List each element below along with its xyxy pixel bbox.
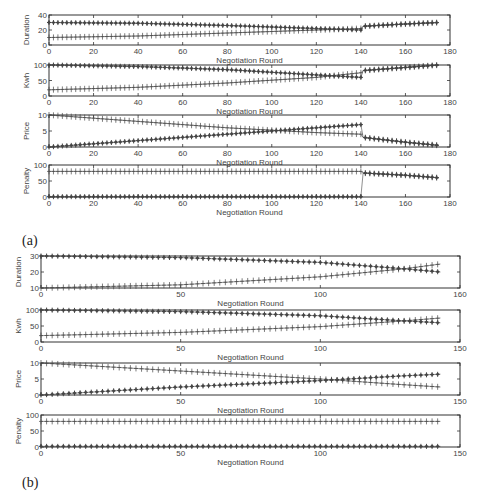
subplot-duration: 050100160102030DurationNegotiation Round xyxy=(14,252,467,308)
x-tick-label: 100 xyxy=(314,290,328,299)
x-tick-label: 150 xyxy=(453,397,467,406)
x-tick-label: 60 xyxy=(178,47,187,56)
y-axis-label: Kwh xyxy=(22,73,31,89)
series-star-marker xyxy=(47,20,439,33)
series-star-marker xyxy=(47,122,439,149)
y-axis-label: Kwh xyxy=(14,318,23,334)
y-tick-label: 0 xyxy=(35,391,40,400)
y-tick-label: 100 xyxy=(34,61,48,70)
x-tick-label: 100 xyxy=(265,47,279,56)
y-tick-label: 20 xyxy=(30,268,39,277)
y-axis-label: Duration xyxy=(22,15,31,45)
series-plus-marker xyxy=(39,360,440,390)
x-tick-label: 120 xyxy=(310,149,324,158)
series-star-marker xyxy=(39,444,440,449)
y-tick-label: 10 xyxy=(30,284,39,293)
x-tick-label: 50 xyxy=(176,397,185,406)
x-tick-label: 180 xyxy=(443,47,457,56)
y-tick-label: 100 xyxy=(26,306,40,315)
series-plus-marker xyxy=(47,168,439,180)
subplot-kwh: 050100150050100KwhNegotiation Round xyxy=(14,306,467,362)
x-tick-label: 40 xyxy=(134,149,143,158)
series-plus-marker xyxy=(39,315,440,338)
x-tick-label: 100 xyxy=(314,449,328,458)
y-tick-label: 0 xyxy=(43,41,48,50)
x-tick-label: 100 xyxy=(265,199,279,208)
x-tick-label: 140 xyxy=(354,47,368,56)
y-axis-label: Penalty xyxy=(22,168,31,195)
x-axis-label: Negotiation Round xyxy=(216,208,282,217)
x-tick-label: 40 xyxy=(134,199,143,208)
x-tick-label: 150 xyxy=(453,449,467,458)
x-tick-label: 80 xyxy=(223,199,232,208)
y-tick-label: 10 xyxy=(38,111,47,120)
x-tick-label: 160 xyxy=(453,290,467,299)
subplot-penalty: 050100150050100PenaltyNegotiation Round xyxy=(14,411,467,467)
x-tick-label: 50 xyxy=(176,290,185,299)
y-tick-label: 100 xyxy=(26,411,40,420)
x-tick-label: 0 xyxy=(39,397,44,406)
y-tick-label: 5 xyxy=(43,127,48,136)
axes-box xyxy=(41,256,460,288)
x-axis-label: Negotiation Round xyxy=(216,56,282,65)
subplot-penalty: 020406080100120140160180050100PenaltyNeg… xyxy=(22,161,457,217)
x-tick-label: 180 xyxy=(443,98,457,107)
x-tick-label: 120 xyxy=(310,98,324,107)
panel-b: 050100160102030DurationNegotiation Round… xyxy=(14,252,467,467)
x-axis-label: Negotiation Round xyxy=(217,458,283,467)
x-tick-label: 0 xyxy=(47,149,52,158)
x-tick-label: 50 xyxy=(176,344,185,353)
x-tick-label: 160 xyxy=(399,98,413,107)
x-axis-label: Negotiation Round xyxy=(217,299,283,308)
x-tick-label: 40 xyxy=(134,47,143,56)
x-axis-label: Negotiation Round xyxy=(217,353,283,362)
x-tick-label: 20 xyxy=(89,98,98,107)
y-axis-label: Penalty xyxy=(14,418,23,445)
x-tick-label: 20 xyxy=(89,47,98,56)
y-tick-label: 0 xyxy=(43,143,48,152)
panel-a: 02040608010012014016018002040DurationNeg… xyxy=(22,11,457,217)
x-tick-label: 0 xyxy=(47,199,52,208)
y-axis-label: Duration xyxy=(14,257,23,287)
y-tick-label: 50 xyxy=(30,427,39,436)
y-tick-label: 0 xyxy=(43,92,48,101)
series-star-marker xyxy=(47,171,439,200)
x-tick-label: 140 xyxy=(354,199,368,208)
x-tick-label: 50 xyxy=(176,449,185,458)
series-plus-marker xyxy=(39,261,440,291)
x-tick-label: 100 xyxy=(265,98,279,107)
x-tick-label: 0 xyxy=(39,449,44,458)
caption-a: (a) xyxy=(22,233,38,249)
series-star-marker xyxy=(39,372,440,398)
y-tick-label: 50 xyxy=(38,177,47,186)
y-tick-label: 10 xyxy=(30,359,39,368)
subplot-kwh: 020406080100120140160180050100KwhNegotia… xyxy=(22,61,457,116)
x-tick-label: 180 xyxy=(443,199,457,208)
x-tick-label: 80 xyxy=(223,98,232,107)
figure: 02040608010012014016018002040DurationNeg… xyxy=(0,0,480,498)
y-tick-label: 5 xyxy=(35,375,40,384)
x-tick-label: 60 xyxy=(178,199,187,208)
chart-canvas: 02040608010012014016018002040DurationNeg… xyxy=(0,0,480,498)
y-tick-label: 0 xyxy=(35,338,40,347)
x-tick-label: 20 xyxy=(89,199,98,208)
x-axis-label: Negotiation Round xyxy=(217,406,283,415)
x-tick-label: 40 xyxy=(134,98,143,107)
x-tick-label: 60 xyxy=(178,149,187,158)
axes-box xyxy=(41,363,460,395)
x-tick-label: 180 xyxy=(443,149,457,158)
caption-b: (b) xyxy=(22,475,38,491)
x-tick-label: 140 xyxy=(354,98,368,107)
x-tick-label: 0 xyxy=(47,98,52,107)
x-tick-label: 160 xyxy=(399,149,413,158)
x-tick-label: 100 xyxy=(314,397,328,406)
y-tick-label: 50 xyxy=(30,322,39,331)
y-tick-label: 50 xyxy=(38,77,47,86)
y-tick-label: 40 xyxy=(38,11,47,20)
series-plus-marker xyxy=(39,418,440,424)
y-tick-label: 100 xyxy=(34,161,48,170)
y-axis-label: Price xyxy=(22,121,31,140)
y-tick-label: 30 xyxy=(30,252,39,261)
y-tick-label: 0 xyxy=(43,193,48,202)
x-tick-label: 160 xyxy=(399,199,413,208)
